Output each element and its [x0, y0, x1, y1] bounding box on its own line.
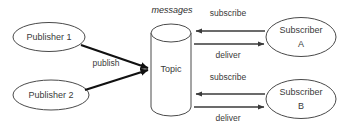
subscriber-a-ellipse	[266, 18, 336, 57]
topic-cylinder-top	[151, 24, 191, 42]
node-subscriber-b[interactable]: Subscriber B	[266, 80, 336, 119]
diagram-canvas: messages Publisher 1 Publisher 2 Topic S…	[0, 0, 342, 130]
pubsub-diagram: messages Publisher 1 Publisher 2 Topic S…	[0, 0, 342, 130]
subscriber-a-label-line1: Subscriber	[279, 25, 322, 35]
node-publisher-1[interactable]: Publisher 1	[13, 23, 85, 52]
subscriber-a-label-line2: A	[298, 39, 304, 49]
subscriber-b-label-line1: Subscriber	[279, 87, 322, 97]
publisher-2-label: Publisher 2	[28, 90, 73, 100]
subscribe-bottom-label: subscribe	[210, 72, 247, 82]
publish-label: publish	[93, 58, 120, 68]
node-subscriber-a[interactable]: Subscriber A	[266, 18, 336, 57]
topic-label: Topic	[160, 64, 182, 74]
node-topic[interactable]: Topic	[151, 24, 191, 116]
deliver-top-label: deliver	[215, 50, 240, 60]
publisher-1-label: Publisher 1	[26, 32, 71, 42]
edge-publish-from-publisher-2	[85, 70, 148, 90]
node-publisher-2[interactable]: Publisher 2	[13, 80, 89, 110]
topic-cylinder-body	[151, 33, 191, 116]
deliver-bottom-label: deliver	[215, 113, 240, 123]
messages-title: messages	[151, 5, 193, 15]
publish-arrow-2-line	[85, 70, 148, 90]
subscriber-b-label-line2: B	[298, 101, 304, 111]
subscribe-top-label: subscribe	[210, 8, 247, 18]
subscriber-b-ellipse	[266, 80, 336, 119]
